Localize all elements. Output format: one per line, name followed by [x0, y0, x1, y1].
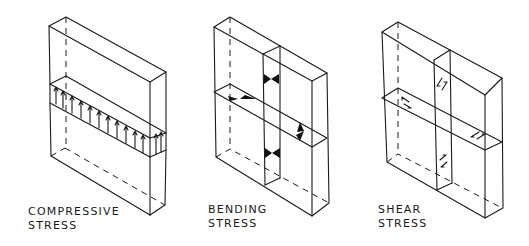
label-line-1: COMPRESSIVE — [28, 205, 120, 219]
label-line-2: STRESS — [378, 217, 427, 231]
bending-stress-box — [214, 17, 329, 216]
compressive-stress-label: COMPRESSIVE STRESS — [28, 205, 120, 233]
shear-arrows — [402, 78, 485, 167]
shear-stress-box — [382, 22, 503, 218]
label-line-1: BENDING — [208, 203, 268, 217]
bending-stress-label: BENDING STRESS — [208, 203, 268, 231]
compression-arrows — [54, 87, 163, 154]
label-line-2: STRESS — [208, 217, 268, 231]
label-line-1: SHEAR — [378, 203, 427, 217]
label-line-2: STRESS — [28, 219, 120, 233]
bending-stress-markers — [228, 74, 304, 158]
shear-stress-label: SHEAR STRESS — [378, 203, 427, 231]
compressive-stress-box — [49, 17, 166, 215]
